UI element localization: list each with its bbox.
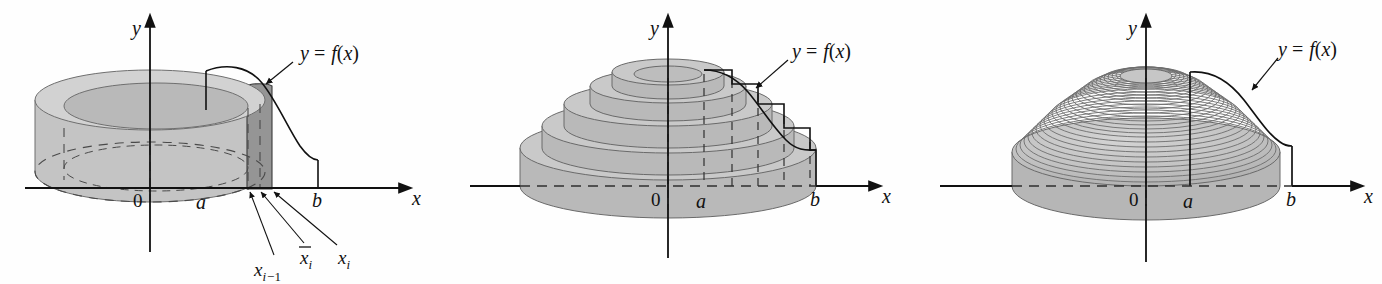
origin-label: 0 — [133, 190, 143, 211]
origin-label: 0 — [651, 189, 661, 210]
tick-label-b: b — [1286, 188, 1296, 210]
panel-single-shell: y x 0 a b y=f(x) xi−1 — [0, 0, 440, 284]
axis-label-x: x — [411, 187, 421, 209]
axis-label-y: y — [648, 17, 659, 40]
inner-bore-ellipse — [64, 83, 248, 129]
curve-label-leader — [756, 60, 788, 88]
origin-label: 0 — [1129, 189, 1139, 210]
tick-label-a: a — [696, 190, 706, 212]
axis-label-y: y — [130, 17, 141, 40]
panel-many-shells: y x 0 a b y=f(x) — [900, 0, 1382, 284]
curve-label: y=f(x) — [298, 42, 359, 65]
tick-label-b: b — [810, 188, 820, 210]
panel-stepped-shells: y x 0 a b y=f(x) — [440, 0, 900, 284]
curve-label-leader — [266, 62, 293, 84]
curve-label: y=f(x) — [790, 40, 851, 63]
label-x-bar-i: xi — [299, 247, 312, 272]
curve-label-leader — [1252, 58, 1278, 90]
svg-text:xi: xi — [299, 247, 312, 272]
curve-label: y=f(x) — [1276, 38, 1337, 61]
axis-label-x: x — [881, 185, 891, 207]
tick-label-b: b — [312, 189, 322, 211]
tick-label-a: a — [196, 191, 206, 213]
cylindrical-shells-figure: y x 0 a b y=f(x) xi−1 — [0, 0, 1382, 284]
tick-label-a: a — [1183, 190, 1193, 212]
axis-label-y: y — [1126, 17, 1137, 40]
label-x-i: xi — [337, 247, 350, 272]
label-x-i-minus-1: xi−1 — [253, 259, 281, 284]
shell-label-leaders — [250, 192, 337, 255]
axis-label-x: x — [1363, 185, 1373, 207]
